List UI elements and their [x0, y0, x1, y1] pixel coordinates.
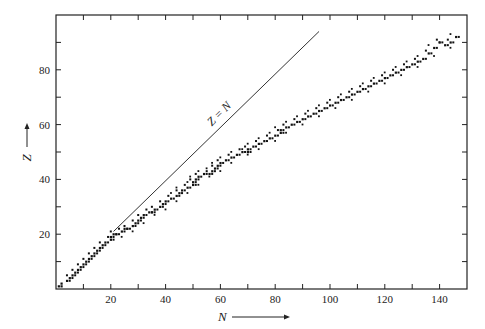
tick-labels: 2040608010012014020406080 — [39, 64, 448, 305]
plot-frame — [56, 15, 467, 289]
y-axis-label: Z — [19, 154, 34, 162]
svg-text:140: 140 — [431, 293, 448, 305]
svg-text:40: 40 — [160, 293, 172, 305]
x-axis-label: N — [217, 309, 228, 324]
svg-text:60: 60 — [215, 293, 227, 305]
svg-text:60: 60 — [39, 119, 51, 131]
svg-text:80: 80 — [39, 64, 51, 76]
z-equals-n-line — [114, 31, 320, 231]
svg-text:100: 100 — [322, 293, 339, 305]
axis-ticks — [56, 15, 467, 289]
svg-text:40: 40 — [39, 173, 51, 185]
x-arrow-head-icon — [284, 315, 290, 320]
svg-text:120: 120 — [377, 293, 394, 305]
y-arrow-head-icon — [25, 123, 30, 129]
svg-text:20: 20 — [39, 228, 51, 240]
data-points — [58, 33, 460, 287]
z-equals-n-label: Z = N — [204, 98, 235, 129]
svg-text:80: 80 — [270, 293, 282, 305]
nuclide-chart: 2040608010012014020406080 Z = N N Z — [0, 0, 485, 329]
svg-text:20: 20 — [105, 293, 117, 305]
